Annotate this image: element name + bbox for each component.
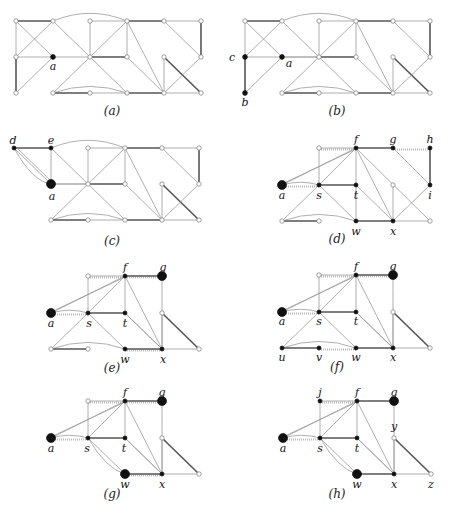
panel-a: a(a): [0, 0, 224, 128]
graph-node: [49, 347, 53, 351]
graph-node: [86, 146, 90, 150]
vertex-label-a: a: [277, 189, 287, 202]
graph-node: [428, 219, 432, 223]
graph-node: [391, 19, 395, 23]
vertex-label-y: y: [389, 420, 399, 433]
graph-node: [391, 91, 395, 95]
graph-node: [160, 311, 164, 315]
graph-node: [428, 19, 432, 23]
graph-node: [86, 274, 90, 278]
graph-node: [86, 182, 90, 186]
graph-node: [354, 346, 358, 350]
graph-node: [317, 146, 321, 150]
graph-node: [160, 347, 164, 351]
graph-node: [280, 91, 284, 95]
graph-node: [243, 19, 247, 23]
graph-node: [354, 183, 358, 187]
graph-node: [317, 91, 321, 95]
graph-node: [354, 310, 358, 314]
graph-node: [125, 55, 129, 59]
vertex-label-t: t: [351, 189, 361, 202]
graph-node: [123, 347, 127, 351]
graph-node: [88, 55, 92, 59]
vertex-label-g: g: [388, 133, 398, 146]
graph-node: [51, 91, 55, 95]
panel-e: fgastwx(e): [0, 256, 224, 384]
graph-node: [123, 436, 127, 440]
panel-caption: (h): [225, 487, 449, 501]
panel-caption: (d): [225, 232, 449, 246]
graph-node: [280, 19, 284, 23]
graph-node: [355, 436, 359, 440]
vertex-label-a: a: [47, 190, 57, 203]
graph-node: [280, 346, 284, 350]
graph-node: [86, 218, 90, 222]
panel-h: jfgyastwxz(h): [225, 384, 449, 512]
graph-node: [199, 91, 203, 95]
vertex-label-c: c: [227, 51, 237, 64]
graph-node: [123, 274, 127, 278]
panel-caption: (g): [0, 487, 224, 501]
graph-node: [14, 91, 18, 95]
vertex-label-s: s: [84, 317, 94, 330]
graph-node: [428, 146, 432, 150]
graph-node: [317, 273, 321, 277]
vertex-label-a: a: [277, 315, 287, 328]
graph-node: [280, 219, 284, 223]
graph-node: [123, 218, 127, 222]
graph-node: [243, 91, 248, 96]
graph-node: [162, 19, 166, 23]
graph-node: [14, 55, 18, 59]
vertex-label-s: s: [314, 315, 324, 328]
graph-node: [47, 180, 56, 189]
graph-node: [428, 346, 432, 350]
graph-node: [197, 146, 201, 150]
graph-node: [243, 55, 248, 60]
panel-d: fghastiwx(d): [225, 128, 449, 256]
vertex-label-i: i: [425, 189, 435, 202]
vertex-label-f: f: [352, 386, 362, 399]
graph-node: [317, 183, 321, 187]
graph-node: [86, 436, 90, 440]
vertex-label-f: f: [351, 133, 361, 146]
graph-node: [199, 55, 203, 59]
vertex-label-g: g: [388, 260, 398, 273]
graph-node: [197, 347, 201, 351]
graph-node: [197, 218, 201, 222]
graph-node: [123, 182, 127, 186]
graph-node: [317, 19, 321, 23]
graph-node: [197, 182, 201, 186]
graph-node: [354, 146, 358, 150]
graph-node: [86, 311, 90, 315]
graph-node: [392, 472, 396, 476]
vertex-label-d: d: [8, 134, 18, 147]
graph-node: [199, 19, 203, 23]
graph-node: [123, 399, 127, 403]
vertex-label-t: t: [352, 442, 362, 455]
graph-node: [429, 472, 433, 476]
vertex-label-a: a: [48, 60, 58, 73]
vertex-label-f: f: [120, 386, 130, 399]
panel-f: fgastuvwx(f): [225, 256, 449, 384]
vertex-label-t: t: [351, 315, 361, 328]
graph-node: [86, 347, 90, 351]
vertex-label-h: h: [425, 133, 435, 146]
vertex-label-g: g: [158, 261, 168, 274]
vertex-label-a: a: [284, 57, 294, 70]
graph-node: [391, 219, 395, 223]
graph-node: [354, 273, 358, 277]
vertex-label-f: f: [351, 260, 361, 273]
vertex-label-t: t: [119, 442, 129, 455]
graph-node: [354, 219, 358, 223]
graph-node: [392, 436, 396, 440]
graph-node: [14, 19, 18, 23]
graph-node: [428, 91, 432, 95]
graph-node: [354, 19, 358, 23]
vertex-label-s: s: [315, 442, 325, 455]
panel-b: cab(b): [225, 0, 449, 128]
panel-c: dea(c): [0, 128, 224, 256]
vertex-label-g: g: [389, 386, 399, 399]
vertex-label-s: s: [82, 442, 92, 455]
graph-node: [88, 19, 92, 23]
graph-node: [317, 55, 321, 59]
